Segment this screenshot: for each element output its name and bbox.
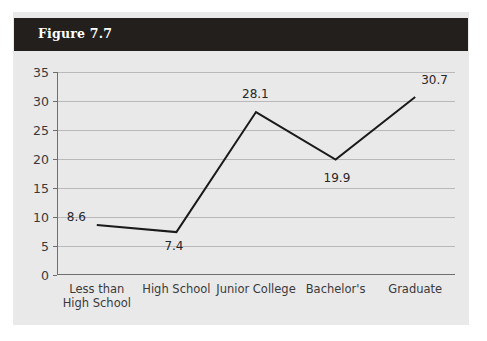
chart-area: 05101520253035 Less than High SchoolHigh… [13,51,469,325]
x-axis-tick-label: Bachelor's [306,282,366,296]
x-axis-tick-label: Junior College [216,282,296,296]
y-axis-tick-label: 10 [33,210,49,225]
data-point-label: 28.1 [242,87,269,101]
y-axis-tick-label: 15 [33,181,49,196]
y-axis-tick-label: 20 [33,152,49,167]
data-point-label: 19.9 [324,171,351,185]
data-point-label: 30.7 [421,73,448,87]
figure-title: Figure 7.7 [38,26,112,41]
y-axis-tick-label: 0 [41,268,49,283]
data-point-label: 8.6 [67,210,86,224]
figure-panel: Figure 7.7 05101520253035 Less than High… [13,12,469,325]
series-line-chart [57,72,455,275]
plot-area: 05101520253035 Less than High SchoolHigh… [57,72,455,275]
figure-header-bar: Figure 7.7 [14,18,468,51]
x-axis-tick-label: Less than High School [63,282,131,310]
y-axis-tick-label: 35 [33,65,49,80]
x-axis-tick-label: Graduate [388,282,442,296]
y-axis-tick-label: 30 [33,94,49,109]
y-axis-tick-label: 25 [33,123,49,138]
data-point-label: 7.4 [164,239,183,253]
x-axis-tick-label: High School [142,282,210,296]
y-axis-tick-label: 5 [41,239,49,254]
y-axis-tick-mark [53,275,57,276]
